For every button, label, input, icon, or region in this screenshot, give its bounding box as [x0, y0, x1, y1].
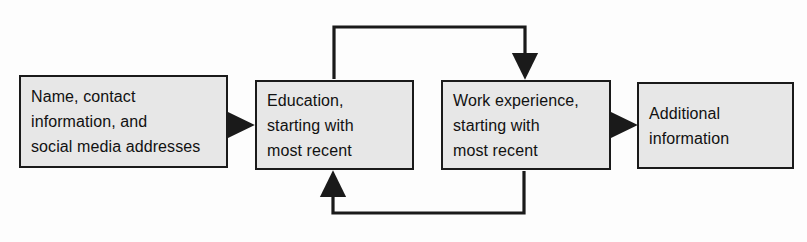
box-text-line: Name, contact: [31, 84, 216, 109]
flow-chart: Name, contact information, and social me…: [0, 0, 807, 242]
box-text-line: starting with: [267, 113, 402, 138]
connector-education-to-work-top: [334, 27, 525, 79]
connector-work-to-education-bottom: [333, 171, 524, 213]
box-text-line: Education,: [267, 88, 402, 113]
box-text-line: information, and: [31, 109, 216, 134]
box-text-line: most recent: [267, 138, 402, 163]
box-text-line: Additional: [649, 101, 782, 126]
box-text-line: starting with: [453, 113, 599, 138]
box-text-line: social media addresses: [31, 134, 216, 159]
contact-information-box[interactable]: Name, contact information, and social me…: [19, 75, 228, 168]
additional-information-box[interactable]: Additional information: [637, 82, 794, 169]
education-box[interactable]: Education, starting with most recent: [255, 80, 414, 170]
box-text-line: Work experience,: [453, 88, 599, 113]
box-text-line: most recent: [453, 138, 599, 163]
box-text-line: information: [649, 126, 782, 151]
work-experience-box[interactable]: Work experience, starting with most rece…: [441, 80, 611, 170]
